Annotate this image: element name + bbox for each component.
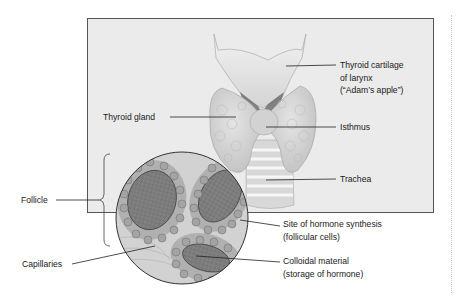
label-site-of-hormone-synthesis: Site of hormone synthesis (follicular ce… [283, 218, 382, 243]
label-line: Thyroid cartilage [340, 59, 404, 72]
label-line: Colloidal material [283, 255, 363, 268]
label-capillaries: Capillaries [22, 258, 62, 271]
label-line: (follicular cells) [283, 231, 382, 244]
label-isthmus: Isthmus [340, 121, 370, 134]
label-trachea: Trachea [340, 173, 371, 186]
label-line: (“Adam’s apple”) [340, 84, 404, 97]
thyroid-illustration [0, 0, 463, 296]
label-line: Site of hormone synthesis [283, 218, 382, 231]
label-thyroid-gland: Thyroid gland [103, 111, 155, 124]
label-colloidal-material: Colloidal material (storage of hormone) [283, 255, 363, 280]
label-line: (storage of hormone) [283, 268, 363, 281]
label-line: of larynx [340, 72, 404, 85]
label-thyroid-cartilage: Thyroid cartilage of larynx (“Adam’s app… [340, 59, 404, 97]
follicle-bracket [100, 154, 110, 246]
label-follicle: Follicle [21, 194, 48, 207]
